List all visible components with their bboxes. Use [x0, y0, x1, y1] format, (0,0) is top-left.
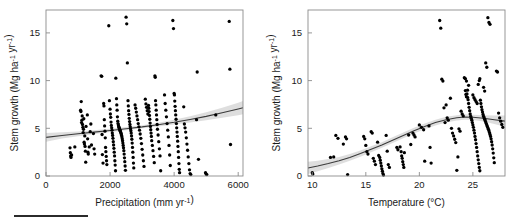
data-point	[187, 155, 190, 158]
data-point	[107, 24, 110, 27]
data-point	[466, 98, 469, 101]
data-point	[472, 126, 475, 129]
data-point	[154, 99, 157, 102]
data-point	[148, 121, 151, 124]
data-point	[111, 134, 114, 137]
x-tick-label: 20	[414, 179, 425, 190]
data-point	[329, 156, 332, 159]
data-point	[444, 103, 447, 106]
data-point	[500, 123, 503, 126]
data-point	[462, 114, 465, 117]
data-point	[80, 100, 83, 103]
data-point	[176, 140, 179, 143]
y-axis-title: Stem growth (Mg ha-1 yr-1)	[265, 35, 282, 152]
data-point	[104, 150, 107, 153]
data-point	[388, 166, 391, 169]
data-point	[114, 77, 117, 80]
data-point	[387, 163, 390, 166]
data-point	[123, 164, 126, 167]
data-point	[498, 116, 501, 119]
data-point	[229, 143, 232, 146]
crop-edge-rule	[14, 215, 88, 217]
data-point	[127, 113, 130, 116]
x-tick-label: 0	[43, 179, 48, 190]
data-point	[101, 153, 104, 156]
data-point	[154, 76, 157, 79]
data-point	[195, 118, 198, 121]
data-point	[332, 155, 335, 158]
data-point	[81, 114, 84, 117]
data-point	[400, 150, 403, 153]
data-point	[485, 66, 488, 69]
data-point	[89, 130, 92, 133]
data-point	[475, 146, 478, 149]
data-point	[81, 123, 84, 126]
data-point	[82, 117, 85, 120]
data-point	[466, 88, 469, 91]
data-point	[176, 145, 179, 148]
data-point	[228, 20, 231, 23]
data-point	[116, 115, 119, 118]
data-point	[169, 164, 172, 167]
data-point	[151, 144, 154, 147]
data-point	[398, 145, 401, 148]
data-point	[174, 109, 177, 112]
data-point	[402, 166, 405, 169]
data-point	[112, 143, 115, 146]
data-point	[123, 156, 126, 159]
data-point	[497, 111, 500, 114]
data-point	[467, 84, 470, 87]
data-point	[83, 145, 86, 148]
data-point	[476, 102, 479, 105]
data-point	[175, 122, 178, 125]
data-point	[108, 99, 111, 102]
data-point	[155, 113, 158, 116]
axis-frame	[46, 10, 243, 176]
data-point	[455, 169, 458, 172]
data-point	[73, 145, 76, 148]
data-point	[173, 99, 176, 102]
data-point	[374, 163, 377, 166]
data-point	[108, 108, 111, 111]
data-point	[114, 163, 117, 166]
data-point	[103, 124, 106, 127]
data-point	[155, 109, 158, 112]
data-point	[471, 93, 474, 96]
data-point	[491, 143, 494, 146]
data-point	[82, 128, 85, 131]
data-point	[196, 70, 199, 73]
data-point	[491, 147, 494, 150]
data-point	[92, 132, 95, 135]
data-point	[171, 19, 174, 22]
data-point	[89, 122, 92, 125]
data-point	[477, 162, 480, 165]
data-point	[101, 161, 104, 164]
data-point	[492, 156, 495, 159]
data-point	[172, 27, 175, 30]
data-point	[104, 136, 107, 139]
data-point	[87, 152, 90, 155]
data-point	[123, 160, 126, 163]
data-point	[402, 163, 405, 166]
data-point	[90, 143, 93, 146]
data-point	[122, 146, 125, 149]
data-point	[104, 146, 107, 149]
data-point	[131, 151, 134, 154]
data-point	[173, 93, 176, 96]
data-point	[186, 149, 189, 152]
data-point	[142, 159, 145, 162]
data-point	[483, 89, 486, 92]
data-point	[152, 155, 155, 158]
data-point	[83, 134, 86, 137]
data-point	[137, 122, 140, 125]
data-point	[379, 159, 382, 162]
data-point	[151, 149, 154, 152]
data-point	[401, 157, 404, 160]
data-point	[115, 97, 118, 100]
data-point	[149, 131, 152, 134]
data-point	[177, 156, 180, 159]
data-point	[472, 129, 475, 132]
data-point	[396, 148, 399, 151]
data-point	[86, 137, 89, 140]
x-tick-label: 10	[307, 179, 318, 190]
